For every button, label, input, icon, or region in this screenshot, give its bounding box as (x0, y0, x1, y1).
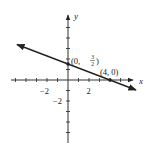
coordinate-plane: x y −2 2 −2 (0, 3 2 ) (4, 0) (0, 0, 148, 148)
point-x-intercept (108, 78, 112, 82)
y-tick-label-neg2: −2 (53, 96, 62, 106)
annotation-prefix: (0, (71, 56, 80, 66)
y-axis (66, 15, 70, 143)
x-tick-label-neg2: −2 (40, 86, 49, 96)
annotation-x-intercept: (4, 0) (100, 67, 119, 77)
svg-text:(0,: (0, (71, 56, 80, 66)
fraction-denominator: 2 (91, 61, 94, 67)
fraction-numerator: 3 (91, 54, 94, 60)
annotation-suffix: ) (96, 56, 99, 66)
point-y-intercept (66, 62, 70, 66)
annotation-y-intercept: (0, 3 2 ) (71, 54, 99, 68)
y-axis-label: y (73, 11, 78, 21)
x-tick-label-2: 2 (87, 86, 91, 96)
x-axis-label: x (138, 76, 143, 86)
